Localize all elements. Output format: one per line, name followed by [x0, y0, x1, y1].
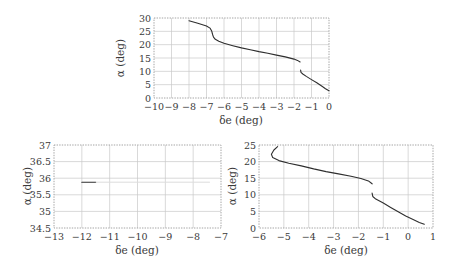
x-tick-label: −3: [327, 231, 341, 242]
y-tick-label: 25: [139, 26, 151, 37]
data-line: [301, 70, 329, 91]
x-tick-label: −5: [234, 101, 248, 112]
plot-frame: [259, 145, 433, 228]
x-tick-label: −12: [72, 231, 92, 242]
x-tick-label: −1: [376, 231, 390, 242]
y-tick-label: 37: [39, 140, 51, 151]
x-tick-label: −9: [164, 101, 178, 112]
bottom-left-y-axis-label: α (deg): [21, 167, 33, 205]
y-tick-label: 15: [244, 173, 256, 184]
bottom-right-x-axis-label: δe (deg): [324, 244, 368, 256]
x-tick-label: −1: [304, 101, 318, 112]
x-tick-label: −11: [100, 231, 120, 242]
x-tick-label: −10: [127, 231, 147, 242]
x-tick-label: −9: [158, 231, 172, 242]
data-line: [189, 21, 300, 62]
data-line: [372, 193, 424, 224]
y-tick-label: 5: [250, 206, 256, 217]
x-tick-label: −2: [287, 101, 301, 112]
y-tick-label: 0: [250, 223, 256, 234]
y-tick-label: 20: [139, 39, 151, 50]
y-tick-label: 30: [139, 13, 151, 24]
y-tick-label: 36.5: [30, 156, 51, 167]
y-tick-label: 10: [244, 189, 256, 200]
x-tick-label: −4: [252, 101, 266, 112]
x-tick-label: −2: [351, 231, 365, 242]
chart-bottom-right: −6−5−4−3−2−1010510152025: [244, 140, 436, 243]
y-tick-label: 0: [145, 93, 151, 104]
y-tick-label: 36: [39, 173, 51, 184]
bottom-right-y-axis-label: α (deg): [226, 167, 238, 205]
top-y-axis-label: α (deg): [114, 39, 126, 77]
x-tick-label: 1: [430, 231, 436, 242]
y-tick-label: 10: [139, 66, 151, 77]
x-tick-label: −8: [182, 101, 196, 112]
x-tick-label: −4: [302, 231, 316, 242]
y-tick-label: 20: [244, 156, 256, 167]
x-tick-label: 0: [405, 231, 411, 242]
x-tick-label: −6: [217, 101, 231, 112]
x-tick-label: −7: [199, 101, 213, 112]
y-tick-label: 35: [39, 206, 51, 217]
x-tick-label: −3: [269, 101, 283, 112]
y-tick-label: 25: [244, 140, 256, 151]
x-tick-label: −8: [186, 231, 200, 242]
y-tick-label: 35.5: [30, 189, 51, 200]
chart-bottom-left: −13−12−11−10−9−8−734.53535.53636.537: [30, 140, 228, 243]
x-tick-label: −7: [214, 231, 228, 242]
y-tick-label: 15: [139, 53, 151, 64]
figure: −10−9−8−7−6−5−4−3−2−10051015202530 −13−1…: [0, 0, 454, 268]
chart-top: −10−9−8−7−6−5−4−3−2−10051015202530: [139, 13, 332, 113]
top-x-axis-label: δe (deg): [219, 114, 263, 126]
x-tick-label: 0: [326, 101, 332, 112]
bottom-left-x-axis-label: δe (deg): [115, 244, 159, 256]
x-tick-label: −5: [277, 231, 291, 242]
y-tick-label: 34.5: [30, 223, 51, 234]
y-tick-label: 5: [145, 79, 151, 90]
